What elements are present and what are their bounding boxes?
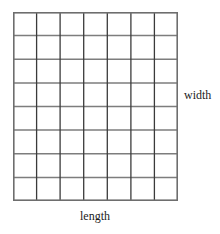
- length-label: length: [80, 210, 110, 222]
- rectangle-grid-figure: [13, 12, 178, 201]
- figure-canvas: width length: [0, 0, 220, 234]
- width-label: width: [184, 89, 211, 101]
- grid-svg: [13, 12, 178, 201]
